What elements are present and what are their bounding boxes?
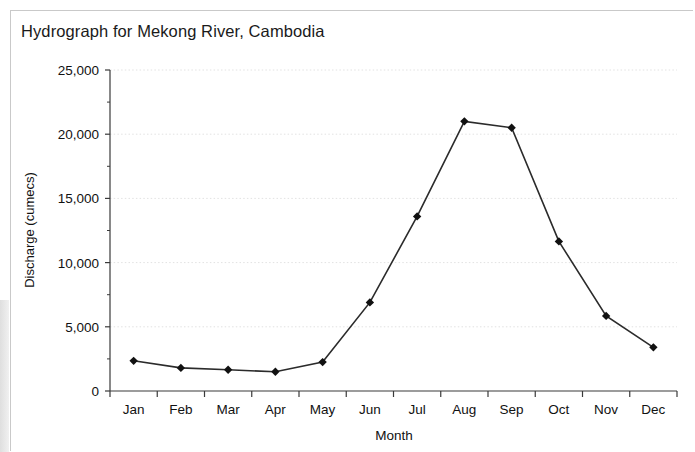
x-tick-label: Jan — [123, 402, 145, 417]
data-point-marker — [177, 364, 185, 372]
figure-page: Hydrograph for Mekong River, Cambodia 05… — [0, 0, 695, 452]
x-tick-label: Sep — [500, 402, 524, 417]
x-axis-title: Month — [375, 428, 413, 443]
y-tick-label: 10,000 — [58, 256, 99, 271]
data-point-marker — [555, 237, 563, 245]
data-point-marker — [460, 117, 468, 125]
x-tick-label: Jul — [408, 402, 425, 417]
data-point-marker — [129, 357, 137, 365]
y-tick-label: 25,000 — [58, 63, 99, 78]
x-tick-label: Nov — [594, 402, 618, 417]
x-tick-label: Mar — [217, 402, 241, 417]
chart-svg: 05,00010,00015,00020,00025,000 JanFebMar… — [0, 0, 695, 452]
discharge-line — [134, 121, 654, 371]
y-tick-label: 5,000 — [65, 320, 99, 335]
discharge-markers — [129, 117, 657, 376]
data-point-marker — [271, 368, 279, 376]
x-axis-tick-labels: JanFebMarAprMayJunJulAugSepOctNovDec — [123, 402, 666, 417]
x-tick-label: Dec — [641, 402, 665, 417]
data-point-marker — [507, 124, 515, 132]
x-tick-label: Aug — [452, 402, 476, 417]
x-tick-label: Apr — [265, 402, 287, 417]
x-tick-label: May — [310, 402, 336, 417]
gridlines — [110, 70, 677, 327]
x-tick-label: Jun — [359, 402, 381, 417]
hydrograph-chart: 05,00010,00015,00020,00025,000 JanFebMar… — [0, 0, 695, 452]
data-point-marker — [649, 343, 657, 351]
y-axis-tick-labels: 05,00010,00015,00020,00025,000 — [58, 63, 99, 399]
y-axis-title: Discharge (cumecs) — [22, 172, 37, 288]
y-tick-label: 0 — [91, 384, 99, 399]
data-point-marker — [224, 366, 232, 374]
data-point-marker — [602, 312, 610, 320]
x-axis-ticks — [110, 391, 677, 397]
y-tick-label: 15,000 — [58, 191, 99, 206]
y-tick-label: 20,000 — [58, 127, 99, 142]
x-tick-label: Oct — [548, 402, 569, 417]
data-point-marker — [413, 212, 421, 220]
y-axis-ticks — [105, 70, 110, 391]
x-tick-label: Feb — [169, 402, 192, 417]
